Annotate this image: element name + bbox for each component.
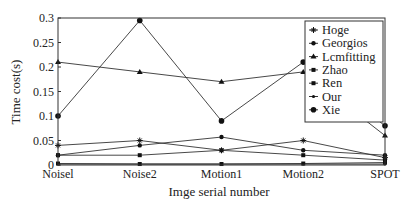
dot-marker-icon <box>219 135 223 139</box>
square-marker-icon <box>301 153 305 157</box>
line-chart: 00.050.10.150.20.250.3 NoiselNoise2Motio… <box>0 0 405 207</box>
series-georgios <box>56 135 387 158</box>
x-tick-label: Noisel <box>42 167 74 181</box>
dot-marker-icon <box>311 41 315 45</box>
y-axis: 00.050.10.150.20.250.3 <box>33 11 61 172</box>
dot-marker-icon <box>312 95 315 98</box>
square-marker-icon <box>138 153 142 157</box>
legend-label: Our <box>322 90 342 104</box>
x-tick-label: SPOT <box>370 167 400 181</box>
series-zhao <box>56 148 387 162</box>
x-tick-label: Noise2 <box>123 167 157 181</box>
square-marker-icon <box>312 68 316 72</box>
star-marker-icon <box>300 138 306 144</box>
y-axis-label: Time cost(s) <box>8 60 23 125</box>
x-tick-label: Motion1 <box>201 167 242 181</box>
dot-marker-icon <box>301 148 305 152</box>
dot-marker-icon <box>311 107 317 113</box>
legend-label: Hoge <box>322 23 350 37</box>
legend-label: Ren <box>322 76 343 90</box>
legend-label: Lcmfitting <box>322 50 376 64</box>
y-tick-label: 0.15 <box>33 85 54 99</box>
y-tick-label: 0.3 <box>39 11 54 25</box>
y-tick-label: 0.1 <box>39 109 54 123</box>
x-axis: NoiselNoise2Motion1Motion2SPOT <box>42 167 400 181</box>
square-marker-icon <box>220 148 224 152</box>
square-marker-icon <box>312 81 316 85</box>
legend-label: Xie <box>322 103 341 117</box>
star-marker-icon <box>137 138 143 144</box>
x-tick-label: Motion2 <box>283 167 324 181</box>
y-tick-label: 0.2 <box>39 60 54 74</box>
legend-label: Georgios <box>322 36 368 50</box>
y-tick-label: 0.25 <box>33 36 54 50</box>
dot-marker-icon <box>219 118 225 124</box>
legend: HogeGeorgiosLcmfittingZhaoRenOurXie <box>305 21 383 122</box>
y-tick-label: 0.05 <box>33 134 54 148</box>
dot-marker-icon <box>138 143 142 147</box>
x-axis-label: Imge serial number <box>168 184 270 199</box>
legend-label: Zhao <box>322 63 348 77</box>
